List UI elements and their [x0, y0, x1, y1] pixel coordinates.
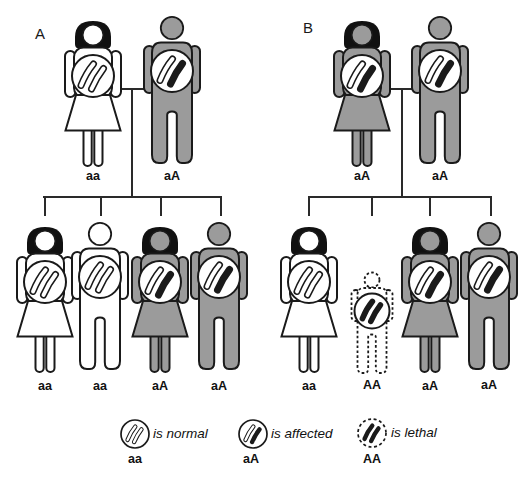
panel-b-mother-figure: [330, 18, 394, 170]
legend-normal-circle: [117, 416, 153, 456]
panel-a-father-figure: [140, 15, 204, 167]
head: [89, 223, 111, 245]
head: [429, 17, 451, 39]
legend-lethal-text: is lethal: [391, 425, 437, 440]
panel-b-child-4: aA: [457, 221, 521, 373]
panel-b-child-2-lethal: AA: [348, 271, 396, 383]
person-figure-male: [408, 15, 472, 167]
panel-b-child-2-genotype: AA: [348, 378, 396, 392]
legend-lethal-genotype: AA: [354, 452, 390, 466]
panel-b-child-3: aA: [398, 224, 462, 376]
family-a-child-4-stub: [220, 196, 222, 216]
person-figure-female: [61, 18, 125, 170]
panel-b-child-1: aa: [277, 224, 341, 376]
panel-a-child-3-genotype: aA: [128, 379, 192, 393]
family-a-descent-line: [131, 88, 133, 198]
legend-genotype-circle: [117, 416, 153, 452]
panel-a-child-2: aa: [68, 221, 132, 373]
panel-a-child-4-figure: [187, 221, 251, 373]
person-figure-male: [187, 221, 251, 373]
pedigree-diagram: A B aa aA: [0, 0, 532, 485]
family-a-child-3-stub: [160, 196, 162, 216]
panel-b-child-3-genotype: aA: [398, 379, 462, 393]
family-b-child-4-stub: [490, 196, 492, 216]
face: [420, 231, 441, 252]
panel-b-label: B: [303, 19, 313, 36]
head: [365, 273, 380, 288]
panel-a-child-2-figure: [68, 221, 132, 373]
family-b-descent-line: [401, 88, 403, 198]
panel-a-mother-figure: [61, 18, 125, 170]
panel-b-father-genotype: aA: [408, 169, 472, 183]
panel-a-child-3-figure: [128, 224, 192, 376]
family-a-child-2-stub: [100, 196, 102, 216]
panel-a-child-3: aA: [128, 224, 192, 376]
panel-b-child-4-figure: [457, 221, 521, 373]
head: [208, 223, 230, 245]
family-b-child-3-stub: [429, 196, 431, 216]
face: [35, 231, 56, 252]
family-b-sibling-line: [308, 196, 492, 198]
person-figure-lethal: [348, 271, 396, 383]
panel-b-child-1-figure: [277, 224, 341, 376]
panel-a-label: A: [35, 25, 45, 42]
panel-a-mother-genotype: aa: [61, 169, 125, 183]
legend-affected-genotype: aA: [233, 452, 269, 466]
panel-b-father-figure: [408, 15, 472, 167]
person-figure-female: [398, 224, 462, 376]
skirt: [66, 95, 121, 131]
skirt: [18, 301, 73, 337]
legend-genotype-circle: [354, 415, 390, 451]
family-a-sibling-line: [43, 196, 222, 198]
face: [150, 231, 171, 252]
head: [478, 223, 500, 245]
panel-b-child-3-figure: [398, 224, 462, 376]
person-figure-male: [140, 15, 204, 167]
skirt: [133, 301, 188, 337]
panel-b-child-1-genotype: aa: [277, 379, 341, 393]
face: [83, 25, 104, 46]
person-figure-male: [68, 221, 132, 373]
legend-normal-text: is normal: [153, 426, 208, 441]
skirt: [282, 301, 337, 337]
panel-a-child-4-genotype: aA: [187, 379, 251, 393]
skirt: [335, 95, 390, 131]
legend-normal-genotype: aa: [117, 452, 153, 466]
panel-a-father: aA: [140, 15, 204, 167]
panel-a-father-genotype: aA: [140, 169, 204, 183]
legend-affected-text: is affected: [271, 426, 333, 441]
panel-a-child-4: aA: [187, 221, 251, 373]
person-figure-female: [128, 224, 192, 376]
panel-a-child-2-genotype: aa: [68, 379, 132, 393]
face: [299, 231, 320, 252]
panel-b-child-2-figure: [348, 271, 396, 383]
person-figure-female: [277, 224, 341, 376]
head: [161, 17, 183, 39]
person-figure-female: [330, 18, 394, 170]
legend-affected-circle: [235, 416, 271, 456]
face: [352, 25, 373, 46]
panel-b-mother: aA: [330, 18, 394, 170]
family-b-child-1-stub: [308, 196, 310, 216]
legend-genotype-circle: [235, 416, 271, 452]
panel-a-mother: aa: [61, 18, 125, 170]
panel-b-child-4-genotype: aA: [457, 378, 521, 392]
panel-b-father: aA: [408, 15, 472, 167]
person-figure-male: [457, 221, 521, 373]
legend-lethal-circle: [354, 415, 390, 455]
family-b-child-2-stub: [371, 196, 373, 216]
panel-b-mother-genotype: aA: [330, 169, 394, 183]
family-a-child-1-stub: [44, 196, 46, 216]
skirt: [403, 301, 458, 337]
